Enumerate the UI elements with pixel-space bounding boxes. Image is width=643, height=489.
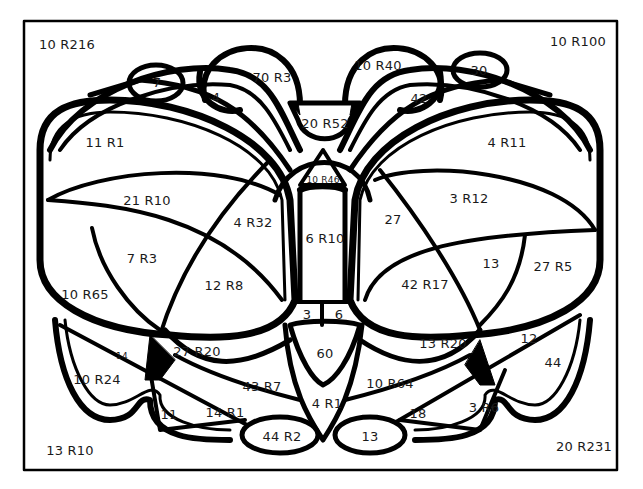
region-label: 10 R40 [354, 58, 401, 73]
region-label: 3 [303, 307, 311, 322]
region-label: 12 R8 [205, 278, 244, 293]
region-label: 44 [545, 355, 562, 370]
region-label: 13 [362, 429, 379, 444]
region-label: 60 [317, 346, 334, 361]
region-label: 10 R216 [39, 37, 95, 52]
region-label: 10 R64 [366, 376, 413, 391]
region-label: 27 R20 [173, 344, 220, 359]
region-label: 10 R100 [550, 34, 606, 49]
region-label: 4 R1 [312, 396, 343, 411]
region-label: 21 R10 [123, 193, 170, 208]
region-label: 42 [411, 91, 428, 106]
region-label: 13 R20 [419, 336, 466, 351]
color-by-number-canvas: 10 R21610 R1007470 R310 R40304220 R5211 … [0, 0, 643, 489]
region-label: 42 R17 [401, 277, 448, 292]
region-label: 14 [116, 351, 128, 361]
region-label: 18 [410, 406, 427, 421]
region-label: 27 [385, 212, 402, 227]
region-label: 6 [335, 307, 343, 322]
region-label: 13 R10 [46, 443, 93, 458]
region-label: 7 [153, 75, 161, 90]
region-label: 43 R7 [243, 379, 282, 394]
region-label: 30 [471, 63, 488, 78]
region-label: 4 [212, 90, 220, 105]
region-label: 11 R1 [86, 135, 125, 150]
region-label: 10 R65 [61, 287, 108, 302]
region-label: 27 R5 [534, 259, 573, 274]
region-label: 13 [483, 256, 500, 271]
region-label: 7 R3 [127, 251, 158, 266]
region-label: 70 R3 [253, 70, 292, 85]
region-label: 4 R11 [488, 135, 527, 150]
region-label: 14 R1 [206, 405, 245, 420]
region-label: 20 R52 [301, 116, 348, 131]
region-label: 44 R2 [263, 429, 302, 444]
region-label: 10 R46 [306, 175, 339, 185]
region-label: 10 R24 [73, 372, 120, 387]
region-label: 11 [161, 407, 178, 422]
region-label: 6 R10 [306, 231, 345, 246]
region-label: 4 R32 [234, 215, 273, 230]
region-label: 3 R6 [469, 400, 500, 415]
region-label: 20 R231 [556, 439, 612, 454]
region-label: 3 R12 [450, 191, 489, 206]
region-label: 12 [521, 331, 538, 346]
